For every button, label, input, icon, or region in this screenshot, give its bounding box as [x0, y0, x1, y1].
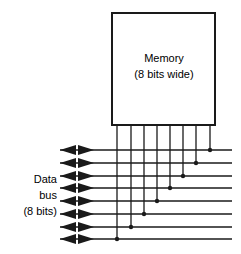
- diagram-canvas: Memory (8 bits wide) Data bus (8 bits): [0, 0, 241, 254]
- junction-dot-bit-5: [181, 174, 185, 178]
- bus-label-line-width: (8 bits): [23, 205, 57, 217]
- junction-dot-bit-7: [208, 148, 212, 152]
- junction-dot-bit-4: [168, 186, 172, 190]
- bus-arrow-left-6: [60, 222, 76, 232]
- bus-arrow-left-5: [60, 209, 76, 219]
- bus-arrow-right-6: [78, 222, 94, 232]
- junction-dot-bit-1: [129, 225, 133, 229]
- bus-arrowheads: [60, 145, 94, 244]
- bus-arrow-right-7: [78, 234, 94, 244]
- bus-arrow-right-5: [78, 209, 94, 219]
- bus-arrow-left-4: [60, 196, 76, 206]
- bus-arrow-right-3: [78, 183, 94, 193]
- bus-arrow-right-2: [78, 171, 94, 181]
- junction-dot-bit-3: [155, 199, 159, 203]
- bus-arrow-left-3: [60, 183, 76, 193]
- junction-dot-bit-6: [194, 161, 198, 165]
- bus-label-line-data: Data: [34, 173, 58, 185]
- memory-label-primary: Memory: [144, 52, 184, 64]
- bus-arrow-left-1: [60, 158, 76, 168]
- bus-arrow-right-1: [78, 158, 94, 168]
- bus-arrow-left-0: [60, 145, 76, 155]
- bus-arrow-right-4: [78, 196, 94, 206]
- junction-dot-bit-2: [142, 212, 146, 216]
- junction-dot-bit-0: [115, 237, 119, 241]
- bus-label-line-bus: bus: [39, 189, 57, 201]
- bus-arrow-left-2: [60, 171, 76, 181]
- bus-arrow-right-0: [78, 145, 94, 155]
- memory-bus-diagram: Memory (8 bits wide) Data bus (8 bits): [0, 0, 241, 254]
- memory-drop-lines: [117, 125, 210, 239]
- memory-label-width: (8 bits wide): [134, 68, 193, 80]
- bus-arrow-left-7: [60, 234, 76, 244]
